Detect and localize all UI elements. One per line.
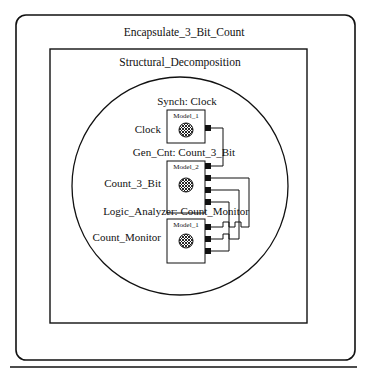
count-3-bit-role-label: Count_3_Bit — [104, 177, 161, 189]
clock-output-port[interactable] — [205, 125, 211, 131]
crosshatch-sphere-icon — [179, 178, 193, 192]
count-monitor-role-label: Count_Monitor — [93, 231, 162, 243]
structural-decomposition-title: Structural_Decomposition — [119, 56, 241, 69]
clock-module[interactable]: Model_1 — [167, 110, 211, 143]
crosshatch-sphere-icon — [179, 123, 193, 137]
clock-model-name: Model_1 — [173, 112, 199, 120]
encapsulate-title: Encapsulate_3_Bit_Count — [124, 26, 246, 39]
count-monitor-model-name: Model_1 — [173, 221, 199, 229]
count-bit1-port[interactable] — [205, 187, 211, 193]
count-clk-input-port[interactable] — [205, 163, 211, 169]
count-3-bit-model-name: Model_2 — [173, 163, 199, 171]
logic-analyzer-instance-label: Logic_Analyzer: Count_Monitor — [103, 205, 249, 217]
clock-role-label: Clock — [135, 123, 162, 135]
synch-clock-instance-label: Synch: Clock — [157, 95, 217, 107]
monitor-input1-port[interactable] — [205, 236, 211, 242]
crosshatch-sphere-icon — [179, 234, 193, 248]
monitor-input2-port[interactable] — [205, 248, 211, 254]
gen-cnt-instance-label: Gen_Cnt: Count_3_Bit — [133, 146, 235, 158]
count-bit0-port[interactable] — [205, 175, 211, 181]
monitor-input0-port[interactable] — [205, 224, 211, 230]
structural-diagram: Encapsulate_3_Bit_Count Structural_Decom… — [0, 0, 370, 377]
count-monitor-module[interactable]: Model_1 — [167, 219, 211, 263]
